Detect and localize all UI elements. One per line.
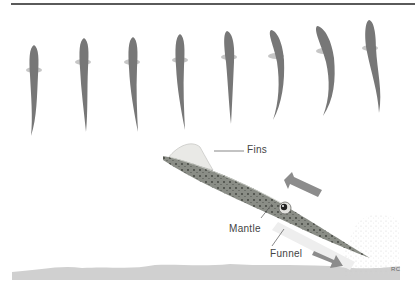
squid-silhouette-4 bbox=[172, 34, 188, 130]
swim-direction-arrow bbox=[284, 172, 322, 197]
fins-label: Fins bbox=[247, 144, 267, 155]
diagram-canvas bbox=[0, 0, 415, 298]
squid-silhouette-5 bbox=[221, 31, 237, 124]
squid-silhouette-6 bbox=[268, 30, 284, 120]
seabed bbox=[12, 264, 400, 280]
swim-sequence bbox=[26, 20, 380, 136]
squid-silhouette-8 bbox=[362, 20, 380, 113]
funnel-label: Funnel bbox=[270, 248, 302, 259]
squid-main bbox=[163, 144, 370, 258]
artist-signature: RC bbox=[391, 266, 400, 272]
squid-silhouette-2 bbox=[75, 38, 91, 132]
mantle-label: Mantle bbox=[229, 223, 261, 234]
squid-silhouette-1 bbox=[26, 45, 42, 136]
squid-silhouette-7 bbox=[316, 26, 335, 116]
squid-silhouette-3 bbox=[124, 37, 140, 132]
